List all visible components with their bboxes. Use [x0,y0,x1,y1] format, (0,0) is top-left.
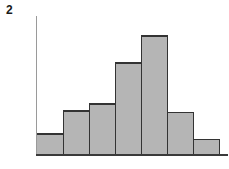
bar-2 [64,111,90,155]
bar-7 [194,139,220,154]
bar-1 [37,134,64,154]
chart-bars [37,36,220,154]
bar-3 [90,104,116,155]
histogram-chart [0,0,229,169]
bar-5 [142,36,168,154]
bar-6 [168,113,194,155]
figure-panel: 2 [0,0,229,169]
bar-4 [116,63,142,155]
